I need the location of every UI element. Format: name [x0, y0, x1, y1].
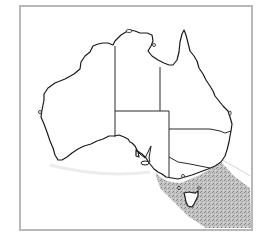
furneaux-island	[198, 187, 201, 189]
faint-range-line-west	[50, 165, 150, 174]
kangaroo-island	[141, 161, 149, 165]
shark-bay-island	[39, 111, 42, 114]
australia-map	[0, 0, 273, 247]
mainland-coastline	[41, 30, 232, 179]
tiwi-islands	[126, 30, 132, 33]
king-island	[178, 186, 180, 190]
flinders-island	[182, 175, 185, 178]
fraser-island	[229, 111, 231, 115]
groote-eylandt	[153, 44, 156, 47]
